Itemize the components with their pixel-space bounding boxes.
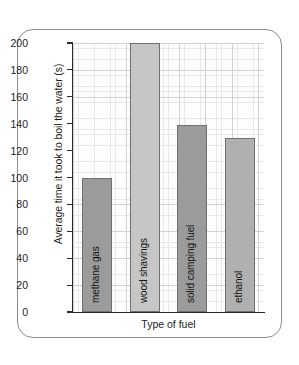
y-axis-title: Average time it took to boil the water (… (52, 29, 64, 279)
y-tick-mark (67, 69, 72, 70)
chart-figure: Average time it took to boil the water (… (17, 29, 282, 338)
bar-category-label: wood shavings (138, 238, 149, 303)
bar-category-label: ethanol (233, 271, 244, 303)
y-tick-label: 100 (0, 172, 28, 184)
y-tick-mark (67, 258, 72, 259)
y-tick-label: 80 (0, 198, 28, 210)
bar-category-label: solid camping fuel (185, 225, 196, 303)
bar: wood shavings (130, 43, 160, 312)
bar: ethanol (225, 138, 255, 312)
bar: solid camping fuel (177, 125, 207, 312)
y-tick-label: 160 (0, 91, 28, 103)
x-axis-title: Type of fuel (73, 318, 264, 330)
y-tick-label: 20 (0, 279, 28, 291)
y-tick-mark (67, 311, 72, 312)
y-tick-label: 140 (0, 118, 28, 130)
x-axis-line (72, 312, 265, 313)
y-tick-mark (67, 123, 72, 124)
y-tick-mark (67, 231, 72, 232)
y-tick-mark (67, 204, 72, 205)
y-tick-label: 120 (0, 145, 28, 157)
y-tick-mark (67, 285, 72, 286)
bar-category-label: methane gas (90, 246, 101, 303)
bar: methane gas (82, 178, 112, 313)
y-axis-line (72, 42, 73, 313)
y-tick-label: 0 (0, 306, 28, 318)
y-tick-mark (67, 150, 72, 151)
y-tick-mark (67, 177, 72, 178)
y-tick-mark (67, 96, 72, 97)
y-tick-label: 40 (0, 252, 28, 264)
y-tick-label: 60 (0, 225, 28, 237)
y-tick-label: 180 (0, 64, 28, 76)
y-tick-mark (67, 42, 72, 43)
y-tick-label: 200 (0, 37, 28, 49)
